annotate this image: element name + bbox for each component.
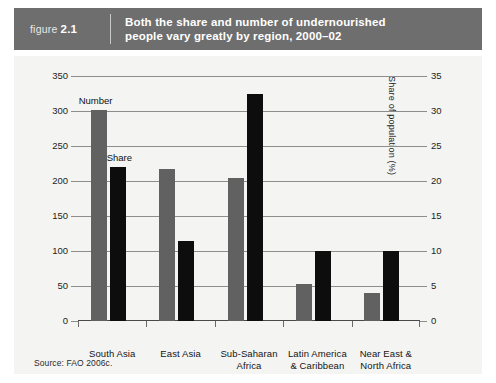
y-tick-left (71, 251, 78, 252)
y-tick-left (71, 216, 78, 217)
x-tick (419, 321, 420, 327)
y-tick-label-left: 250 (52, 141, 68, 151)
y-tick-right (420, 321, 427, 322)
x-tick (146, 321, 147, 327)
figure-number-label: figure 2.1 (14, 23, 110, 35)
y-tick-right (420, 181, 427, 182)
y-tick-left (71, 76, 78, 77)
bar-number (364, 293, 380, 321)
y-tick-label-left: 50 (57, 281, 68, 291)
figure-header-band: figure 2.1 Both the share and number of … (14, 8, 482, 50)
y-tick-left (71, 181, 78, 182)
y-tick-right (420, 111, 427, 112)
figure-container: figure 2.1 Both the share and number of … (0, 0, 496, 383)
y-tick-label-right: 30 (431, 106, 442, 116)
y-tick-label-left: 300 (52, 106, 68, 116)
figure-title-line-2: people vary greatly by region, 2000–02 (125, 29, 386, 44)
y-tick-label-right: 15 (431, 211, 442, 221)
y-tick-left (71, 321, 78, 322)
x-tick (352, 321, 353, 327)
bar-share (383, 251, 399, 321)
y-tick-label-left: 200 (52, 176, 68, 186)
y-tick-right (420, 251, 427, 252)
y-tick-label-left: 0 (63, 316, 68, 326)
y-tick-right (420, 76, 427, 77)
x-axis-label-line: Near East & (342, 348, 430, 360)
figure-title: Both the share and number of undernouris… (111, 15, 386, 44)
y-tick-left (71, 146, 78, 147)
chart-panel: Millions of people Share of population (… (14, 56, 482, 374)
y-tick-right (420, 146, 427, 147)
y-tick-label-right: 35 (431, 71, 442, 81)
plot-area: 050100150200250300350 05101520253035 Num… (78, 76, 420, 321)
x-tick (215, 321, 216, 327)
x-axis-label: Near East &North Africa (342, 348, 430, 372)
y-tick-left (71, 286, 78, 287)
bar-series-container: NumberShare (78, 76, 420, 321)
bar-group (78, 76, 420, 321)
source-note: Source: FAO 2006c. (34, 358, 112, 368)
y-tick-label-right: 10 (431, 246, 442, 256)
x-tick (78, 321, 79, 327)
y-tick-label-right: 25 (431, 141, 442, 151)
y-tick-right (420, 286, 427, 287)
y-tick-label-left: 100 (52, 246, 68, 256)
y-tick-label-left: 350 (52, 71, 68, 81)
x-axis-label-line: North Africa (342, 360, 430, 372)
y-tick-label-left: 150 (52, 211, 68, 221)
figure-word: figure (30, 23, 57, 35)
y-tick-label-right: 5 (431, 281, 436, 291)
y-tick-right (420, 216, 427, 217)
figure-title-line-1: Both the share and number of undernouris… (125, 15, 386, 30)
y-tick-left (71, 111, 78, 112)
x-tick (283, 321, 284, 327)
y-tick-label-right: 20 (431, 176, 442, 186)
figure-number: 2.1 (61, 23, 78, 35)
y-tick-label-right: 0 (431, 316, 436, 326)
